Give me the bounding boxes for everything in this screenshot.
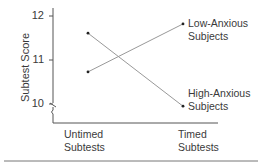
x-category-line: Subtests <box>178 141 219 154</box>
series-label-line: Subjects <box>188 30 248 43</box>
y-tick-label-12: 12 <box>24 9 44 21</box>
y-axis-label: Subtest Score <box>19 33 31 102</box>
series-label-low-anxious: Low-Anxious Subjects <box>188 17 248 43</box>
data-point <box>182 23 185 26</box>
x-category-line: Timed <box>178 128 219 141</box>
series-line-1 <box>88 33 183 106</box>
x-category-line: Untimed <box>64 128 105 141</box>
data-point <box>87 32 90 35</box>
data-point <box>87 70 90 73</box>
series-line-0 <box>88 24 183 72</box>
series-label-line: Low-Anxious <box>188 17 248 30</box>
x-category-untimed: Untimed Subtests <box>64 128 105 154</box>
series-label-line: High-Anxious <box>188 87 250 100</box>
series-label-high-anxious: High-Anxious Subjects <box>188 87 250 113</box>
x-category-timed: Timed Subtests <box>178 128 219 154</box>
data-point <box>182 105 185 108</box>
x-category-line: Subtests <box>64 141 105 154</box>
series-label-line: Subjects <box>188 100 250 113</box>
axis-break-icon <box>50 103 56 123</box>
